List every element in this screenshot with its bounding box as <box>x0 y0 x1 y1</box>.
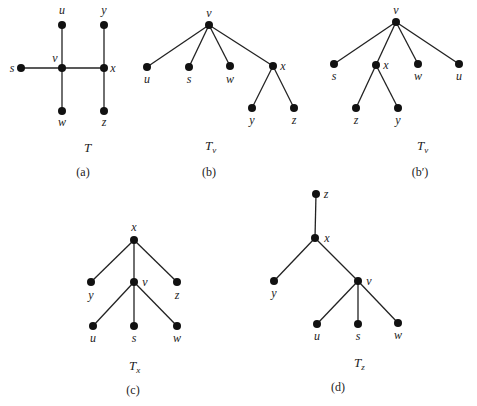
node-w <box>414 60 422 68</box>
node-label-z: z <box>101 115 107 129</box>
node-label-s: s <box>356 329 361 343</box>
figure-c: xyvzuswTx(c) <box>87 220 181 397</box>
edge-v-w <box>134 282 177 326</box>
node-s <box>130 322 138 330</box>
edge-v-u <box>93 282 134 326</box>
node-label-x: x <box>130 220 137 234</box>
node-label-z: z <box>353 113 359 127</box>
node-x <box>311 234 319 242</box>
edge-x-v <box>315 238 358 281</box>
node-u <box>455 60 463 68</box>
edge-x-z <box>356 65 376 108</box>
node-y <box>100 21 108 29</box>
node-label-s: s <box>332 69 337 83</box>
node-w <box>394 319 402 327</box>
tree-name-subscript: v <box>212 145 216 155</box>
node-x <box>130 236 138 244</box>
node-label-u: u <box>456 69 462 83</box>
node-label-v: v <box>366 274 372 288</box>
node-label-v: v <box>52 51 58 65</box>
node-z <box>312 190 320 198</box>
tree-name-subscript: x <box>135 365 140 375</box>
node-label-y: y <box>87 288 94 302</box>
tree-name-subscript: v <box>424 145 428 155</box>
node-s <box>17 64 25 72</box>
tree-name-subscript: z <box>360 362 365 372</box>
node-label-w: w <box>414 69 422 83</box>
tree-name: T <box>84 140 92 155</box>
node-w <box>173 322 181 330</box>
figure-a: uysvxwzT(a) <box>10 3 117 179</box>
node-label-z: z <box>323 187 329 201</box>
tree-name: Tv <box>205 138 216 155</box>
node-z <box>290 104 298 112</box>
node-u <box>58 21 66 29</box>
node-z <box>100 107 108 115</box>
edge-v-w <box>358 281 398 323</box>
edge-v-w <box>396 22 418 64</box>
node-label-s: s <box>187 72 192 86</box>
node-u <box>313 320 321 328</box>
node-x <box>100 64 108 72</box>
node-v <box>58 64 66 72</box>
figure-caption: (b′) <box>412 165 429 179</box>
node-label-u: u <box>59 3 65 17</box>
node-label-w: w <box>226 72 234 86</box>
node-label-x: x <box>109 61 116 75</box>
node-y <box>248 104 256 112</box>
node-label-y: y <box>394 113 401 127</box>
tree-name: Tx <box>129 358 140 375</box>
node-v <box>354 277 362 285</box>
edge-v-u <box>396 22 459 64</box>
node-label-x: x <box>279 59 286 73</box>
node-v <box>392 18 400 26</box>
node-y <box>87 278 95 286</box>
node-label-s: s <box>132 331 137 345</box>
tree-name: Tv <box>417 138 428 155</box>
node-label-x: x <box>382 58 389 72</box>
node-x <box>372 61 380 69</box>
tree-diagrams-canvas: uysvxwzT(a)vuswxyzTv(b)vsxwuzyTv(b′)xyvz… <box>0 0 477 406</box>
figure-b: vuswxyzTv(b) <box>143 6 298 179</box>
node-label-u: u <box>144 72 150 86</box>
node-u <box>89 322 97 330</box>
figure-caption: (d) <box>331 380 345 394</box>
node-y <box>394 104 402 112</box>
node-label-w: w <box>173 331 181 345</box>
node-v <box>205 21 213 29</box>
node-s <box>185 63 193 71</box>
edge-z-x <box>315 194 316 238</box>
figure-caption: (a) <box>76 165 89 179</box>
node-label-y: y <box>248 113 255 127</box>
edge-x-y <box>252 66 273 108</box>
node-w <box>58 107 66 115</box>
node-label-y: y <box>270 286 277 300</box>
node-z <box>352 104 360 112</box>
node-label-z: z <box>291 113 297 127</box>
node-label-v: v <box>142 275 148 289</box>
node-v <box>130 278 138 286</box>
edge-x-y <box>91 240 134 282</box>
node-s <box>354 320 362 328</box>
node-label-s: s <box>10 61 15 75</box>
node-u <box>143 63 151 71</box>
node-z <box>173 278 181 286</box>
edge-v-u <box>317 281 358 324</box>
node-label-z: z <box>174 288 180 302</box>
edge-x-z <box>134 240 177 282</box>
node-label-y: y <box>100 3 107 17</box>
node-label-u: u <box>90 331 96 345</box>
node-label-w: w <box>58 115 66 129</box>
node-x <box>269 62 277 70</box>
node-y <box>270 277 278 285</box>
node-label-v: v <box>206 6 212 20</box>
edge-v-x <box>209 25 273 66</box>
figure-b-prime: vsxwuzyTv(b′) <box>330 3 463 179</box>
edge-x-y <box>274 238 315 281</box>
figure-caption: (b) <box>202 165 216 179</box>
node-label-x: x <box>323 231 330 245</box>
node-label-v: v <box>393 3 399 17</box>
tree-name: Tz <box>354 355 365 372</box>
figure-caption: (c) <box>126 383 139 397</box>
node-label-u: u <box>314 329 320 343</box>
